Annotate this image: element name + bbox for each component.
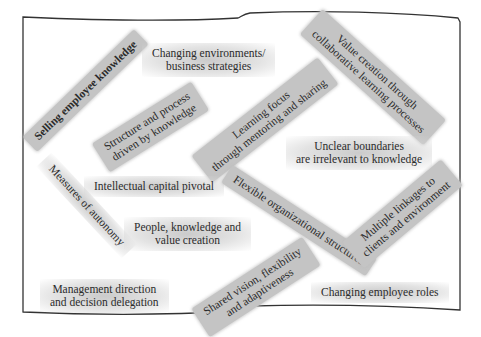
concept-management-direction: Management direction and decision delega… xyxy=(40,279,169,313)
concept-line: are irrelevant to knowledge xyxy=(296,153,422,166)
concept-unclear-boundaries: Unclear boundaries are irrelevant to kno… xyxy=(286,136,432,170)
concept-line: value creation xyxy=(134,234,241,247)
concept-line: business strategies xyxy=(152,60,265,73)
concept-changing-environments: Changing environments/ business strategi… xyxy=(142,43,275,77)
concept-line: Management direction xyxy=(50,283,159,296)
concept-line: Unclear boundaries xyxy=(296,140,422,153)
concept-line: People, knowledge and xyxy=(134,221,241,234)
concept-text: Intellectual capital pivotal xyxy=(94,180,214,192)
concept-line: and decision delegation xyxy=(50,296,159,309)
concept-line: Changing environments/ xyxy=(152,47,265,60)
concept-intellectual-capital: Intellectual capital pivotal xyxy=(84,176,224,197)
concept-text: Changing employee roles xyxy=(321,286,439,298)
concept-people-knowledge: People, knowledge and value creation xyxy=(124,217,251,251)
concept-changing-employee-roles: Changing employee roles xyxy=(311,282,449,303)
